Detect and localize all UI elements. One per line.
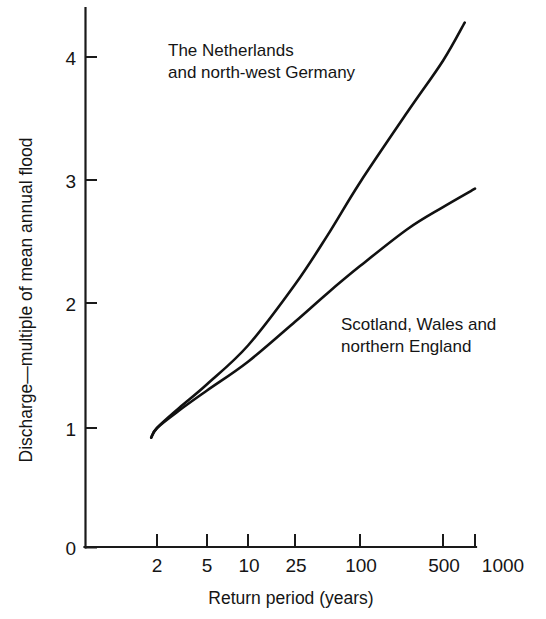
x-tick-label-25: 25 [285, 555, 306, 576]
annotation-scotland-line2: northern England [341, 337, 471, 356]
x-axis-ticks [157, 534, 475, 547]
x-axis-title: Return period (years) [208, 588, 373, 608]
annotation-netherlands-line1: The Netherlands [168, 41, 294, 60]
annotation-scotland-line1: Scotland, Wales and [341, 315, 496, 334]
y-axis-ticks [85, 57, 97, 548]
x-tick-label-10: 10 [238, 555, 259, 576]
y-axis-title: Discharge—multiple of mean annual flood [16, 138, 36, 463]
annotation-netherlands-line2: and north-west Germany [168, 63, 356, 82]
x-tick-label-5: 5 [202, 555, 213, 576]
x-axis-tick-labels: 2 5 10 25 100 500 1000 [152, 555, 524, 576]
x-tick-label-1000: 1000 [482, 555, 524, 576]
flood-frequency-chart: 0 1 2 3 4 2 5 10 25 100 500 1000 [0, 0, 546, 619]
x-tick-label-500: 500 [428, 555, 460, 576]
annotation-netherlands: The Netherlands and north-west Germany [168, 41, 356, 82]
y-tick-label-1: 1 [65, 419, 76, 440]
y-tick-label-2: 2 [65, 294, 76, 315]
series-line-scotland-wales-northern-england [151, 189, 475, 438]
annotation-scotland: Scotland, Wales and northern England [341, 315, 496, 356]
y-tick-label-3: 3 [65, 171, 76, 192]
series-line-netherlands-northwest-germany [151, 23, 464, 438]
y-tick-label-0: 0 [65, 538, 76, 559]
y-tick-label-4: 4 [65, 48, 76, 69]
x-tick-label-100: 100 [345, 555, 377, 576]
x-tick-label-2: 2 [152, 555, 163, 576]
chart-canvas: 0 1 2 3 4 2 5 10 25 100 500 1000 [0, 0, 546, 619]
y-axis-tick-labels: 0 1 2 3 4 [65, 48, 76, 560]
